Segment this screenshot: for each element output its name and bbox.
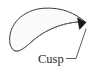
crescent-region [10,8,86,51]
diagram-canvas: Cusp [0,0,97,72]
cusp-label: Cusp [38,52,64,66]
cusp-leader-line [67,29,87,59]
cusp-diagram: Cusp [0,0,97,72]
